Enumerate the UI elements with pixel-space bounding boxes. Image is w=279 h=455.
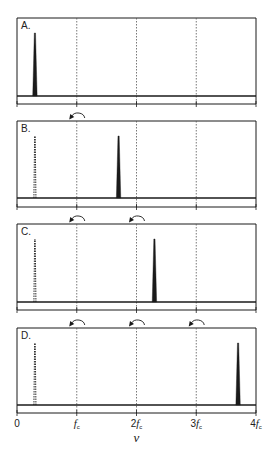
arrowhead-icon <box>69 217 74 223</box>
panel-a: A. <box>17 18 256 107</box>
arrowhead-icon <box>189 321 194 327</box>
x-tick-label: 3fc <box>190 417 202 430</box>
x-tick-label: fc <box>74 417 80 430</box>
aliasing-diagram: A.B.C.D.0fc2fc3fc4fcν <box>0 0 279 455</box>
aliased-peak <box>35 136 36 198</box>
panel-b: B. <box>17 113 256 210</box>
x-axis-label: ν <box>134 430 140 445</box>
solid-peak <box>33 33 37 96</box>
solid-peak <box>236 343 240 405</box>
solid-peak <box>152 239 156 302</box>
solid-peak <box>116 136 120 198</box>
x-tick-label: 2fc <box>131 417 143 430</box>
x-tick-label: 4fc <box>250 417 262 430</box>
arrowhead-icon <box>69 114 74 120</box>
panel-label: A. <box>21 20 30 31</box>
aliased-peak <box>35 343 36 405</box>
arrowhead-icon <box>129 321 134 327</box>
panel-d: D. <box>17 320 256 416</box>
aliased-peak <box>34 343 35 405</box>
x-tick-label: 0 <box>14 418 20 429</box>
arrowhead-icon <box>129 217 134 223</box>
arrowhead-icon <box>69 321 74 327</box>
aliased-peak <box>34 136 35 198</box>
aliased-peak <box>34 239 35 302</box>
panel-label: C. <box>21 226 31 237</box>
aliased-peak <box>35 239 36 302</box>
panel-label: B. <box>21 123 30 134</box>
panel-c: C. <box>17 216 256 313</box>
panel-label: D. <box>21 330 31 341</box>
